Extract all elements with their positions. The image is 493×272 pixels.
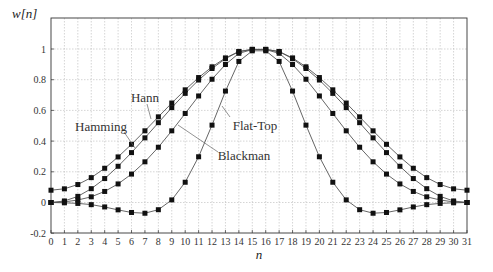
- x-tick-label: 19: [301, 236, 311, 247]
- data-marker: [116, 164, 121, 169]
- y-tick-label: 0.8: [34, 74, 47, 85]
- x-tick-label: 25: [381, 236, 391, 247]
- annotation-leader-line: [222, 106, 230, 117]
- data-marker: [317, 93, 322, 98]
- y-tick-label: 1: [41, 44, 46, 55]
- data-marker: [102, 176, 107, 181]
- data-marker: [49, 188, 54, 193]
- data-marker: [102, 204, 107, 209]
- data-marker: [344, 197, 349, 202]
- x-tick-label: 1: [62, 236, 67, 247]
- data-marker: [277, 51, 282, 56]
- data-marker: [357, 120, 362, 125]
- x-tick-label: 8: [156, 236, 161, 247]
- y-tick-label: -0.2: [30, 228, 46, 239]
- data-marker: [397, 154, 402, 159]
- data-marker: [129, 172, 134, 177]
- data-marker: [277, 59, 282, 64]
- x-tick-label: 31: [462, 236, 472, 247]
- data-marker: [317, 75, 322, 80]
- data-marker: [75, 201, 80, 206]
- data-marker: [438, 182, 443, 187]
- x-tick-label: 2: [75, 236, 80, 247]
- data-marker: [424, 202, 429, 207]
- data-marker: [156, 145, 161, 150]
- data-marker: [116, 181, 121, 186]
- x-tick-label: 10: [180, 236, 190, 247]
- x-tick-label: 17: [274, 236, 284, 247]
- data-marker: [116, 154, 121, 159]
- data-marker: [411, 176, 416, 181]
- data-marker: [384, 150, 389, 155]
- data-marker: [236, 51, 241, 56]
- x-tick-label: 16: [261, 236, 271, 247]
- data-marker: [89, 202, 94, 207]
- data-marker: [451, 186, 456, 191]
- data-marker: [303, 123, 308, 128]
- x-tick-label: 6: [129, 236, 134, 247]
- data-marker: [196, 75, 201, 80]
- data-marker: [384, 210, 389, 215]
- data-marker: [156, 120, 161, 125]
- data-marker: [183, 180, 188, 185]
- data-marker: [102, 189, 107, 194]
- annotation-label-hann: Hann: [131, 90, 160, 105]
- x-tick-label: 3: [89, 236, 94, 247]
- data-marker: [142, 159, 147, 164]
- x-tick-label: 0: [49, 236, 54, 247]
- x-tick-label: 14: [234, 236, 244, 247]
- annotation-label-flat-top: Flat-Top: [233, 118, 278, 133]
- data-marker: [142, 128, 147, 133]
- y-tick-label: 0.2: [34, 166, 47, 177]
- data-marker: [89, 175, 94, 180]
- data-marker: [330, 111, 335, 116]
- data-marker: [357, 114, 362, 119]
- x-tick-label: 4: [102, 236, 107, 247]
- data-marker: [102, 166, 107, 171]
- data-marker: [142, 211, 147, 216]
- x-tick-label: 23: [355, 236, 365, 247]
- data-marker: [129, 210, 134, 215]
- window-functions-chart: 0123456789101112131415161718192021222324…: [0, 0, 493, 272]
- data-marker: [89, 194, 94, 199]
- x-tick-label: 21: [328, 236, 338, 247]
- data-marker: [371, 211, 376, 216]
- data-marker: [75, 182, 80, 187]
- data-marker: [223, 89, 228, 94]
- x-tick-label: 24: [368, 236, 378, 247]
- data-marker: [411, 189, 416, 194]
- annotation-label-blackman: Blackman: [218, 148, 271, 163]
- data-marker: [303, 77, 308, 82]
- data-marker: [330, 87, 335, 92]
- data-marker: [465, 188, 470, 193]
- data-marker: [330, 180, 335, 185]
- data-marker: [290, 55, 295, 60]
- y-tick-label: 0.6: [34, 105, 47, 116]
- data-marker: [357, 145, 362, 150]
- x-tick-label: 15: [247, 236, 257, 247]
- data-marker: [116, 207, 121, 212]
- data-marker: [169, 128, 174, 133]
- data-marker: [290, 89, 295, 94]
- x-tick-label: 18: [288, 236, 298, 247]
- data-marker: [223, 55, 228, 60]
- x-tick-label: 9: [169, 236, 174, 247]
- data-marker: [250, 48, 255, 53]
- x-tick-label: 28: [422, 236, 432, 247]
- data-marker: [290, 62, 295, 67]
- data-marker: [169, 101, 174, 106]
- x-tick-label: 27: [408, 236, 418, 247]
- x-tick-label: 5: [116, 236, 121, 247]
- x-tick-label: 20: [314, 236, 324, 247]
- data-marker: [344, 105, 349, 110]
- data-marker: [49, 200, 54, 205]
- x-tick-label: 13: [220, 236, 230, 247]
- y-tick-label: 0.4: [34, 136, 47, 147]
- data-marker: [210, 64, 215, 69]
- data-marker: [371, 128, 376, 133]
- x-tick-label: 11: [194, 236, 204, 247]
- data-marker: [317, 154, 322, 159]
- data-marker: [196, 154, 201, 159]
- data-marker: [397, 207, 402, 212]
- data-marker: [62, 186, 67, 191]
